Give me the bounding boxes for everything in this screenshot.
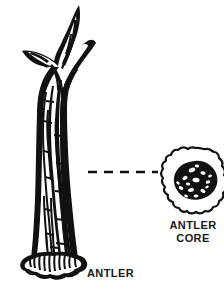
label-antler-core-line2: CORE	[176, 232, 209, 244]
label-antler-core-line1: ANTLER	[169, 219, 216, 231]
antler-illustration	[0, 0, 224, 296]
label-antler: ANTLER	[87, 267, 134, 280]
label-antler-core: ANTLERCORE	[168, 219, 218, 244]
antler-core-porous-center	[174, 161, 218, 200]
antler-figure: ANTLER ANTLERCORE	[0, 0, 224, 296]
